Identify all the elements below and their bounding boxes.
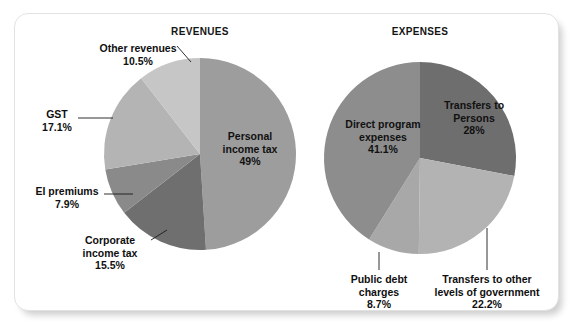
label-text: GST [22,108,92,121]
revenues-panel-title: REVENUES [150,26,250,37]
label-value: 17.1% [22,121,92,134]
label-text: Personal [208,130,292,143]
label-value: 22.2% [424,298,550,311]
label-text: Transfers to [434,99,514,112]
label-text-2: Persons [434,112,514,125]
label-value: 7.9% [18,198,116,211]
expenses-panel-title: EXPENSES [370,26,470,37]
label-text-2: levels of government [424,286,550,299]
label-text-2: income tax [208,143,292,156]
label-text-2: expenses [331,131,435,144]
revenues-label-gst: GST 17.1% [22,108,92,133]
revenues-label-personal-income-tax: Personal income tax 49% [208,130,292,168]
label-value: 10.5% [78,55,198,68]
label-text: Direct program [331,118,435,131]
expenses-pie [324,62,516,254]
figure-root: REVENUES EXPENSES Other revenues 10.5% G… [0,0,575,330]
label-text: Corporate [58,234,162,247]
label-text: Other revenues [78,42,198,55]
label-value: 28% [434,124,514,137]
label-text-2: charges [336,286,422,299]
revenues-label-ei-premiums: EI premiums 7.9% [18,185,116,210]
label-value: 8.7% [336,298,422,311]
expenses-label-direct-program-expenses: Direct program expenses 41.1% [331,118,435,156]
label-text: EI premiums [18,185,116,198]
expenses-label-public-debt-charges: Public debt charges 8.7% [336,273,422,311]
label-text-2: income tax [58,247,162,260]
label-text: Public debt [336,273,422,286]
revenues-label-other-revenues: Other revenues 10.5% [78,42,198,67]
expenses-label-transfers-to-persons: Transfers to Persons 28% [434,99,514,137]
label-text: Transfers to other [424,273,550,286]
label-value: 49% [208,155,292,168]
revenues-label-corporate-income-tax: Corporate income tax 15.5% [58,234,162,272]
label-value: 41.1% [331,143,435,156]
expenses-label-transfers-to-other-levels-of-government: Transfers to other levels of government … [424,273,550,311]
label-value: 15.5% [58,259,162,272]
